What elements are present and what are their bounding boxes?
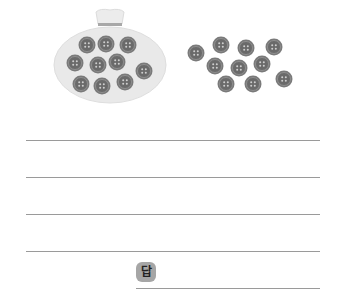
- buttons-illustration: [0, 0, 344, 120]
- button-icon: [245, 76, 262, 93]
- button-icon: [73, 76, 90, 93]
- button-icon: [266, 39, 283, 56]
- writing-line[interactable]: [26, 177, 320, 178]
- button-icon: [213, 37, 230, 54]
- writing-line[interactable]: [26, 251, 320, 252]
- writing-line[interactable]: [26, 214, 320, 215]
- button-icon: [98, 36, 115, 53]
- answer-label: 답: [136, 262, 156, 282]
- button-icon: [94, 78, 111, 95]
- button-icon: [120, 37, 137, 54]
- button-icon: [238, 40, 255, 57]
- writing-line[interactable]: [26, 140, 320, 141]
- button-icon: [109, 54, 126, 71]
- problem-illustration: [0, 0, 344, 120]
- button-icon: [276, 71, 293, 88]
- button-icon: [117, 74, 134, 91]
- loose-buttons: [188, 37, 293, 93]
- button-icon: [79, 37, 96, 54]
- button-icon: [254, 56, 271, 73]
- button-icon: [136, 63, 153, 80]
- answer-line[interactable]: [136, 288, 320, 289]
- button-icon: [188, 45, 205, 62]
- button-icon: [218, 76, 235, 93]
- button-icon: [231, 60, 248, 77]
- button-icon: [90, 57, 107, 74]
- button-icon: [207, 58, 224, 75]
- button-icon: [67, 55, 84, 72]
